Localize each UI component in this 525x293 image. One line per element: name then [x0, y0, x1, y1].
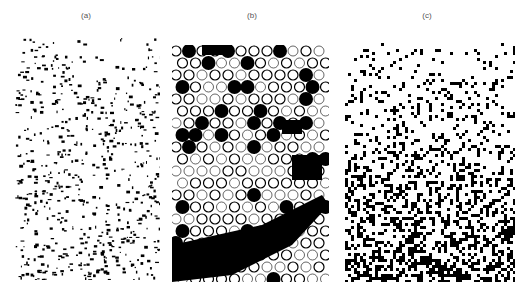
- panel-label-b: (b): [247, 11, 257, 20]
- panel-label-c: (c): [422, 11, 431, 20]
- panel-a-image: [15, 38, 160, 280]
- panel-c-image: [345, 40, 515, 282]
- panel-label-a: (a): [81, 11, 91, 20]
- panel-b-image: [172, 45, 329, 282]
